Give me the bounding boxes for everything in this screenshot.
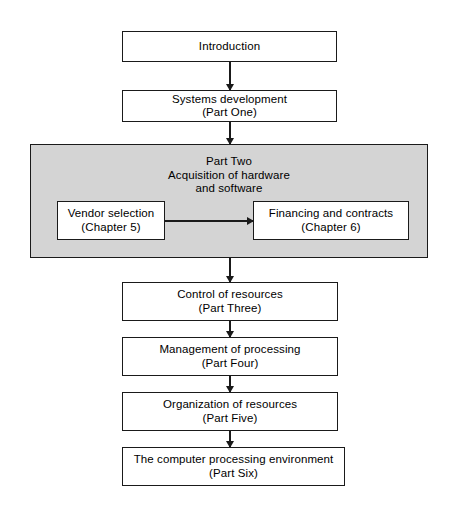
node-management-of-processing-line1: Management of processing (159, 343, 300, 357)
node-control-of-resources-line2: (Part Three) (199, 302, 262, 316)
node-vendor-selection-line1: Vendor selection (68, 207, 155, 221)
node-computer-processing-environment: The computer processing environment (Par… (122, 447, 345, 486)
connector-control-to-management (229, 321, 231, 337)
node-management-of-processing: Management of processing (Part Four) (122, 337, 338, 376)
node-vendor-selection-line2: (Chapter 5) (81, 221, 140, 235)
node-systems-development: Systems development (Part One) (122, 90, 337, 122)
node-control-of-resources-line1: Control of resources (177, 288, 283, 302)
panel-part-two-heading-line1: Part Two (31, 155, 427, 169)
panel-part-two-heading-line3: and software (31, 182, 427, 196)
node-systems-development-line2: (Part One) (202, 106, 257, 120)
node-introduction-line1: Introduction (199, 40, 260, 54)
node-control-of-resources: Control of resources (Part Three) (122, 282, 338, 321)
node-vendor-selection: Vendor selection (Chapter 5) (57, 201, 165, 240)
node-organization-of-resources-line1: Organization of resources (163, 398, 297, 412)
connector-introduction-to-systems-development (229, 62, 231, 90)
node-systems-development-line1: Systems development (172, 93, 287, 107)
connector-part-two-to-control-of-resources (229, 258, 231, 282)
connector-vendor-selection-to-financing (165, 220, 253, 222)
node-financing-and-contracts-line1: Financing and contracts (269, 207, 393, 221)
node-computer-processing-environment-line1: The computer processing environment (134, 453, 334, 467)
connector-management-to-organization (229, 376, 231, 392)
node-management-of-processing-line2: (Part Four) (202, 357, 259, 371)
node-organization-of-resources-line2: (Part Five) (203, 412, 258, 426)
node-financing-and-contracts: Financing and contracts (Chapter 6) (253, 201, 409, 240)
panel-part-two-heading-line2: Acquisition of hardware (31, 169, 427, 183)
node-computer-processing-environment-line2: (Part Six) (209, 467, 258, 481)
node-introduction: Introduction (122, 31, 337, 62)
connector-systems-development-to-part-two (229, 122, 231, 144)
panel-part-two-heading: Part Two Acquisition of hardware and sof… (31, 155, 427, 196)
node-financing-and-contracts-line2: (Chapter 6) (301, 221, 360, 235)
flowchart-diagram: Introduction Systems development (Part O… (0, 0, 458, 510)
node-organization-of-resources: Organization of resources (Part Five) (122, 392, 338, 431)
connector-organization-to-computer-processing-environment (229, 431, 231, 447)
